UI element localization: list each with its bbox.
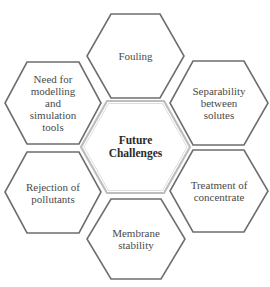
center-label-future-challenges: Future Challenges — [81, 101, 190, 193]
future-challenges-diagram: Fouling Separability between solutes Tre… — [0, 0, 270, 287]
node-label-membrane-stability: Membrane stability — [87, 199, 185, 279]
